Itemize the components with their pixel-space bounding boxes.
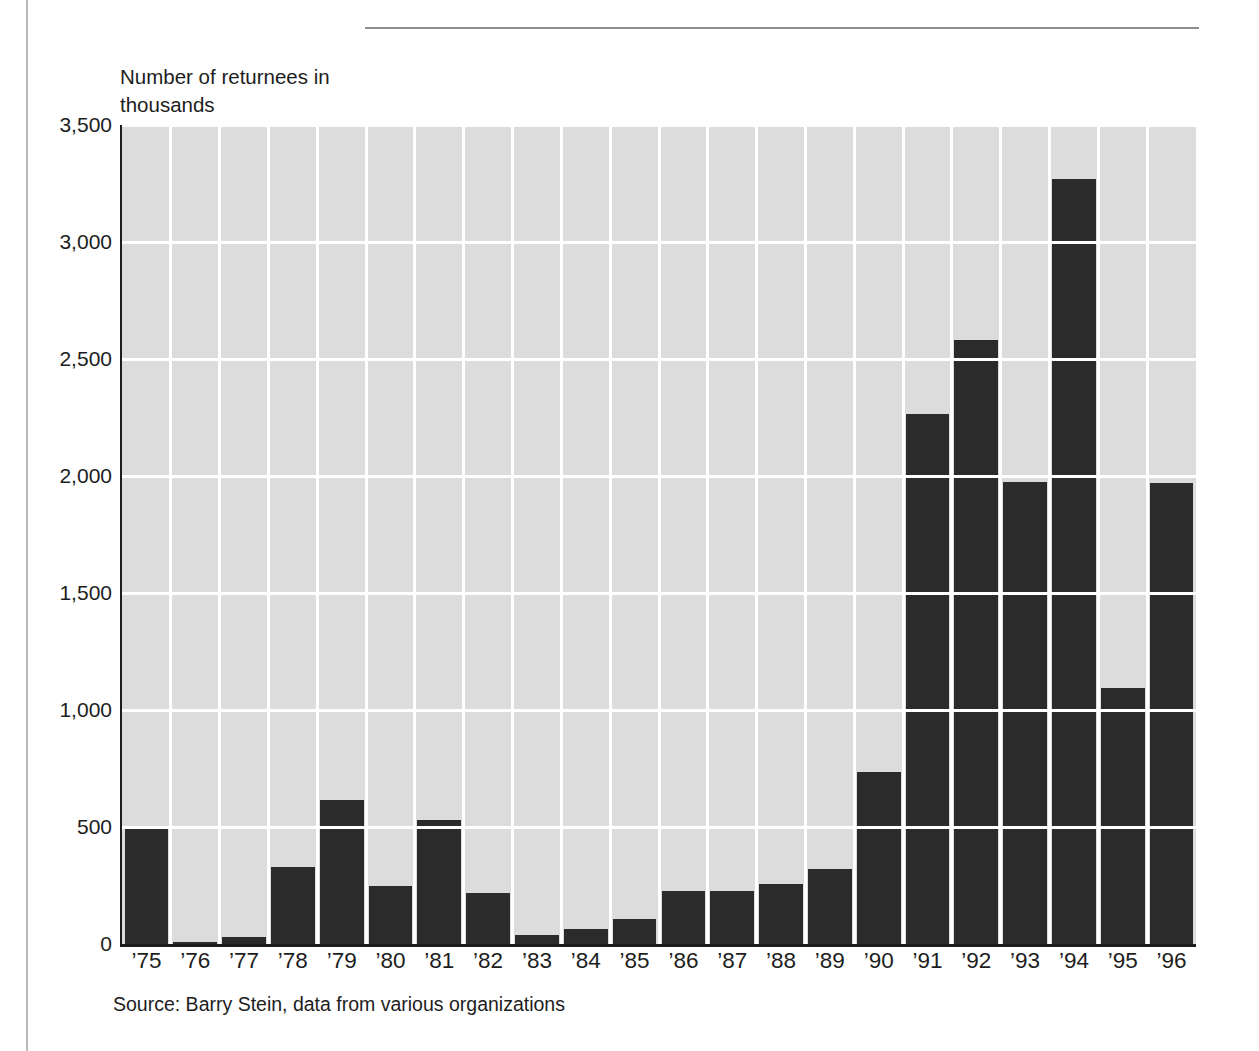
y-tick-label: 3,000 xyxy=(2,230,112,254)
bar xyxy=(564,929,608,944)
vertical-gridline xyxy=(218,125,221,944)
horizontal-gridline xyxy=(122,358,1196,361)
x-tick-label: ’91 xyxy=(903,948,952,974)
vertical-gridline xyxy=(658,125,661,944)
vertical-gridline xyxy=(365,125,368,944)
vertical-gridline xyxy=(462,125,465,944)
plot-area xyxy=(122,125,1196,944)
x-tick-label: ’78 xyxy=(268,948,317,974)
vertical-gridline xyxy=(1097,125,1100,944)
y-tick-label: 500 xyxy=(2,815,112,839)
x-tick-label: ’79 xyxy=(317,948,366,974)
y-tick-label: 2,500 xyxy=(2,347,112,371)
bar xyxy=(466,893,510,944)
horizontal-gridline xyxy=(122,241,1196,244)
bar xyxy=(271,867,315,944)
bar xyxy=(808,869,852,944)
horizontal-gridline xyxy=(122,475,1196,478)
vertical-gridline xyxy=(950,125,953,944)
y-tick-label: 1,500 xyxy=(2,581,112,605)
y-axis-title: Number of returnees in thousands xyxy=(120,63,370,119)
vertical-gridline xyxy=(609,125,612,944)
x-tick-label: ’76 xyxy=(171,948,220,974)
vertical-gridline xyxy=(267,125,270,944)
vertical-gridline xyxy=(560,125,563,944)
y-tick-label: 3,500 xyxy=(2,113,112,137)
x-tick-label: ’83 xyxy=(513,948,562,974)
bar xyxy=(1003,482,1047,944)
bar xyxy=(857,772,901,944)
horizontal-gridline xyxy=(122,826,1196,829)
bar-chart-figure: Number of returnees in thousands 05001,0… xyxy=(0,0,1259,1051)
y-tick-label: 2,000 xyxy=(2,464,112,488)
x-tick-label: ’90 xyxy=(854,948,903,974)
x-tick-label: ’84 xyxy=(561,948,610,974)
bar xyxy=(662,891,706,944)
vertical-gridline xyxy=(1146,125,1149,944)
bar xyxy=(222,937,266,944)
x-tick-label: ’87 xyxy=(708,948,757,974)
horizontal-gridline xyxy=(122,592,1196,595)
vertical-gridline xyxy=(902,125,905,944)
x-axis-baseline xyxy=(122,944,1196,947)
bar xyxy=(1150,483,1194,944)
vertical-gridline xyxy=(853,125,856,944)
source-note: Source: Barry Stein, data from various o… xyxy=(113,993,565,1016)
bar xyxy=(515,935,559,944)
x-tick-label: ’82 xyxy=(464,948,513,974)
x-tick-label: ’94 xyxy=(1050,948,1099,974)
vertical-gridline xyxy=(999,125,1002,944)
x-tick-label: ’81 xyxy=(415,948,464,974)
x-tick-label: ’80 xyxy=(366,948,415,974)
x-tick-label: ’75 xyxy=(122,948,171,974)
x-axis-tick-labels: ’75’76’77’78’79’80’81’82’83’84’85’86’87’… xyxy=(122,948,1196,982)
vertical-gridline xyxy=(511,125,514,944)
y-tick-label: 1,000 xyxy=(2,698,112,722)
vertical-gridline xyxy=(804,125,807,944)
horizontal-gridline xyxy=(122,124,1196,127)
bar xyxy=(173,942,217,944)
vertical-gridline xyxy=(1048,125,1051,944)
bar xyxy=(710,891,754,944)
x-tick-label: ’96 xyxy=(1147,948,1196,974)
bar xyxy=(759,884,803,944)
x-tick-label: ’93 xyxy=(1001,948,1050,974)
vertical-gridline xyxy=(413,125,416,944)
bar xyxy=(320,800,364,944)
x-tick-label: ’85 xyxy=(610,948,659,974)
bar xyxy=(906,414,950,944)
y-tick-label: 0 xyxy=(2,932,112,956)
vertical-gridline xyxy=(755,125,758,944)
bar xyxy=(613,919,657,944)
y-axis-tick-labels: 05001,0001,5002,0002,5003,0003,500 xyxy=(0,125,112,944)
vertical-gridline xyxy=(316,125,319,944)
bar xyxy=(954,340,998,944)
x-tick-label: ’92 xyxy=(952,948,1001,974)
horizontal-gridline xyxy=(122,709,1196,712)
bar xyxy=(1052,179,1096,944)
bar xyxy=(417,820,461,944)
x-tick-label: ’77 xyxy=(220,948,269,974)
vertical-gridline xyxy=(706,125,709,944)
vertical-gridline xyxy=(169,125,172,944)
y-axis-line xyxy=(120,125,122,947)
x-tick-label: ’89 xyxy=(805,948,854,974)
x-tick-label: ’95 xyxy=(1098,948,1147,974)
x-tick-label: ’88 xyxy=(757,948,806,974)
bar xyxy=(1101,688,1145,944)
bar xyxy=(369,886,413,945)
x-tick-label: ’86 xyxy=(659,948,708,974)
bar xyxy=(125,827,169,944)
